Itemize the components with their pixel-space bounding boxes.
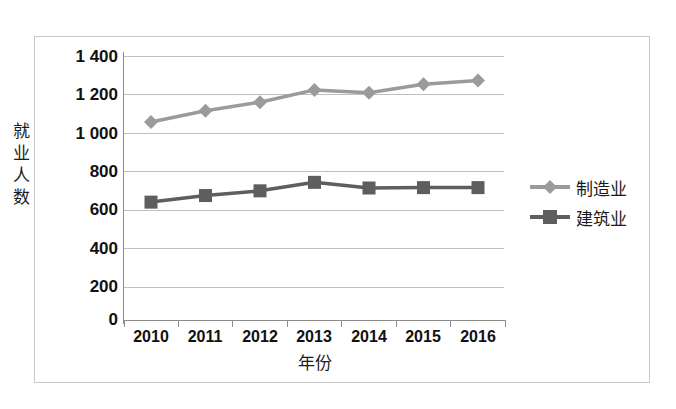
data-point-square-marker [199,189,212,202]
y-axis-tick-labels: 1 400 1 200 1 000 800 600 400 200 0 [44,0,118,347]
data-point-square-marker [254,184,267,197]
data-point-diamond-marker [417,77,431,91]
y-axis-title-char: 就 [6,120,36,142]
y-tick-label: 600 [48,200,118,220]
x-tick-mark [124,320,125,327]
x-tick-label: 2013 [284,328,344,346]
y-tick-label: 0 [48,310,118,330]
y-tick-label: 1 200 [48,85,118,105]
x-tick-mark [287,320,288,327]
data-point-square-marker [145,196,158,209]
data-point-diamond-marker [253,95,267,109]
x-tick-mark [178,320,179,327]
x-tick-mark [505,320,506,327]
y-tick-label: 200 [48,277,118,297]
y-tick-label: 1 000 [48,124,118,144]
x-tick-mark [396,320,397,327]
x-tick-label: 2016 [448,328,508,346]
data-point-diamond-marker [362,86,376,100]
data-point-square-marker [308,176,321,189]
x-tick-label: 2015 [393,328,453,346]
legend-label: 建筑业 [576,205,627,230]
y-tick-label: 800 [48,162,118,182]
legend-item-construction[interactable]: 建筑业 [528,202,648,232]
data-point-square-marker [363,182,376,195]
legend-item-manufacturing[interactable]: 制造业 [528,172,648,202]
y-axis-title-char: 人 [6,164,36,186]
data-point-diamond-marker [308,83,322,97]
x-tick-mark [450,320,451,327]
y-tick-label: 1 400 [48,47,118,67]
chart-legend: 制造业 建筑业 [528,172,648,232]
data-point-diamond-marker [199,104,213,118]
y-tick-label: 400 [48,239,118,259]
legend-diamond-marker-icon [528,177,572,197]
x-tick-mark [341,320,342,327]
x-tick-label: 2010 [121,328,181,346]
data-point-diamond-marker [144,115,158,129]
x-tick-mark [232,320,233,327]
legend-label: 制造业 [576,175,627,200]
series-layer [124,40,514,330]
data-point-square-marker [472,181,485,194]
x-tick-label: 2012 [230,328,290,346]
legend-square-marker-icon [528,207,572,227]
y-axis-title-char: 数 [6,186,36,208]
data-point-square-marker [417,181,430,194]
x-axis-title: 年份 [124,349,505,374]
data-point-diamond-marker [471,74,485,88]
x-tick-label: 2014 [339,328,399,346]
x-tick-label: 2011 [175,328,235,346]
y-axis-title: 就 业 人 数 [6,120,36,208]
y-axis-title-char: 业 [6,142,36,164]
